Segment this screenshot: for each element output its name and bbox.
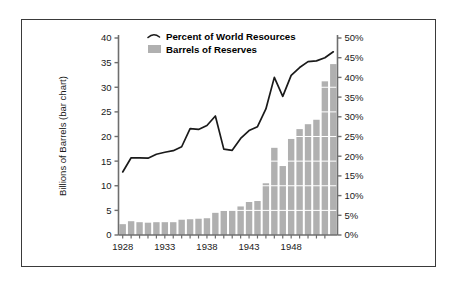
- y-axis-left-ticks: 0510152025303540: [101, 32, 119, 240]
- y2-tick-label-15%: 15%: [345, 170, 365, 181]
- y2-tick-label-25%: 25%: [345, 131, 365, 142]
- bar-1938: [204, 218, 210, 235]
- legend-line-icon: [148, 35, 160, 38]
- x-tick-label-1943: 1943: [238, 241, 259, 252]
- y-axis-right-ticks: 0%5%10%15%20%25%30%35%40%45%50%: [338, 32, 365, 240]
- y-tick-label-10: 10: [101, 180, 112, 191]
- bar-1932: [153, 222, 159, 235]
- bar-1951: [313, 120, 319, 235]
- y-tick-label-35: 35: [101, 57, 112, 68]
- y2-tick-label-45%: 45%: [345, 52, 365, 63]
- bar-1947: [280, 166, 286, 235]
- bar-1944: [254, 201, 260, 235]
- bar-1945: [263, 183, 269, 235]
- bar-1936: [187, 219, 193, 235]
- y2-tick-label-20%: 20%: [345, 151, 365, 162]
- legend-label-barrels: Barrels of Reserves: [166, 44, 257, 55]
- chart-legend: Percent of World Resources Barrels of Re…: [148, 31, 296, 55]
- y2-tick-label-5%: 5%: [345, 210, 359, 221]
- chart-figure: 0510152025303540 0%5%10%15%20%25%30%35%4…: [0, 0, 458, 287]
- y-tick-label-5: 5: [106, 205, 111, 216]
- x-axis-ticks: 19281933193819431948: [112, 235, 325, 252]
- bar-1950: [305, 124, 311, 235]
- y-tick-label-15: 15: [101, 156, 112, 167]
- y2-tick-label-50%: 50%: [345, 32, 365, 43]
- bar-1948: [288, 139, 294, 235]
- y-tick-label-40: 40: [101, 32, 112, 43]
- y-axis-title: Billions of Barrels (bar chart): [57, 76, 68, 196]
- y2-tick-label-0%: 0%: [345, 229, 359, 240]
- bar-undefined: [330, 64, 336, 235]
- chart-canvas: 0510152025303540 0%5%10%15%20%25%30%35%4…: [0, 0, 458, 287]
- x-tick-label-1933: 1933: [154, 241, 175, 252]
- y-tick-label-25: 25: [101, 106, 112, 117]
- y-tick-label-0: 0: [106, 229, 111, 240]
- bar-1934: [170, 222, 176, 235]
- y-tick-label-20: 20: [101, 131, 112, 142]
- bar-1928: [120, 224, 126, 235]
- y2-tick-label-10%: 10%: [345, 190, 365, 201]
- x-tick-label-1938: 1938: [196, 241, 217, 252]
- bar-1929: [128, 221, 134, 235]
- legend-label-percent: Percent of World Resources: [166, 31, 296, 42]
- bar-1935: [178, 220, 184, 235]
- bar-1941: [229, 210, 235, 235]
- bar-1943: [246, 202, 252, 235]
- x-tick-label-1948: 1948: [281, 241, 302, 252]
- y-tick-label-30: 30: [101, 82, 112, 93]
- bar-1931: [145, 223, 151, 235]
- bar-1952: [322, 81, 328, 235]
- y2-tick-label-30%: 30%: [345, 111, 365, 122]
- y2-tick-label-35%: 35%: [345, 92, 365, 103]
- bar-1930: [136, 222, 142, 235]
- bar-series-barrels-of-reserves: [119, 38, 336, 235]
- bar-1937: [195, 219, 201, 235]
- x-tick-label-1928: 1928: [112, 241, 133, 252]
- bar-1933: [162, 222, 168, 235]
- bar-1939: [212, 213, 218, 235]
- bar-1940: [221, 211, 227, 235]
- y2-tick-label-40%: 40%: [345, 72, 365, 83]
- legend-swatch-icon: [148, 45, 161, 53]
- bar-1949: [296, 129, 302, 235]
